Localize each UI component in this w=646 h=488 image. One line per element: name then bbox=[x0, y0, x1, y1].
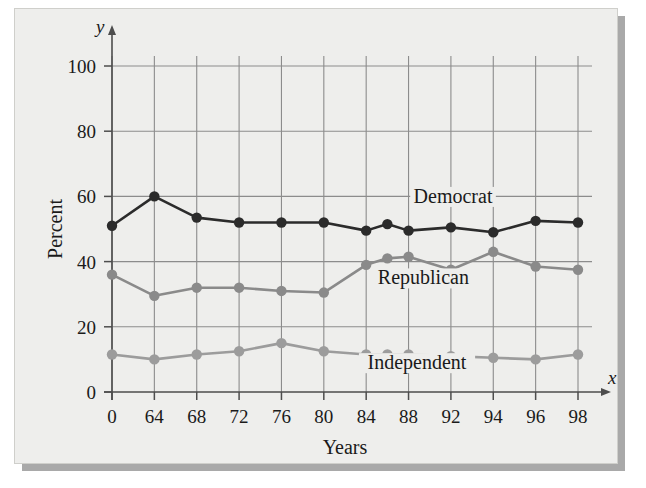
data-point bbox=[573, 349, 583, 359]
series-line bbox=[112, 252, 578, 296]
data-point bbox=[276, 286, 286, 296]
axes: yx bbox=[94, 16, 617, 400]
series-republican bbox=[107, 247, 583, 301]
data-point bbox=[403, 225, 413, 235]
data-point bbox=[192, 212, 202, 222]
data-point bbox=[361, 260, 371, 270]
series-label-republican: Republican bbox=[378, 266, 469, 289]
series-label-independent: Independent bbox=[368, 351, 467, 374]
data-point bbox=[403, 252, 413, 262]
data-point bbox=[234, 282, 244, 292]
data-series bbox=[107, 191, 583, 364]
series-democrat bbox=[107, 191, 583, 237]
data-point bbox=[530, 261, 540, 271]
y-tick-label: 20 bbox=[77, 317, 96, 338]
tick-marks bbox=[104, 66, 578, 400]
y-tick-label: 40 bbox=[77, 252, 96, 273]
data-point bbox=[361, 225, 371, 235]
data-point bbox=[382, 253, 392, 263]
data-point bbox=[192, 282, 202, 292]
y-axis-letter: y bbox=[94, 16, 105, 37]
y-tick-label: 0 bbox=[87, 382, 97, 403]
x-axis-title: Years bbox=[323, 436, 368, 458]
data-point bbox=[107, 221, 117, 231]
series-line bbox=[112, 196, 578, 232]
y-tick-label: 60 bbox=[77, 186, 96, 207]
data-point bbox=[149, 291, 159, 301]
data-point bbox=[234, 217, 244, 227]
series-independent bbox=[107, 338, 583, 365]
x-tick-label: 92 bbox=[441, 406, 460, 427]
data-point bbox=[192, 349, 202, 359]
x-tick-label: 88 bbox=[399, 406, 418, 427]
x-tick-label: 72 bbox=[230, 406, 249, 427]
data-point bbox=[276, 338, 286, 348]
data-point bbox=[530, 216, 540, 226]
data-point bbox=[234, 346, 244, 356]
data-point bbox=[573, 217, 583, 227]
data-point bbox=[319, 346, 329, 356]
tick-labels: 02040608010006468727680848892949698 bbox=[68, 56, 588, 427]
y-axis-arrowhead bbox=[108, 25, 116, 35]
x-tick-label: 98 bbox=[569, 406, 588, 427]
data-point bbox=[446, 222, 456, 232]
series-line bbox=[112, 343, 578, 359]
data-point bbox=[488, 247, 498, 257]
x-tick-label: 96 bbox=[526, 406, 545, 427]
data-point bbox=[107, 269, 117, 279]
y-tick-label: 80 bbox=[77, 121, 96, 142]
x-tick-label: 80 bbox=[314, 406, 333, 427]
data-point bbox=[276, 217, 286, 227]
figure-root: yx 02040608010006468727680848892949698 D… bbox=[0, 0, 646, 488]
x-tick-label: 0 bbox=[107, 406, 117, 427]
x-tick-label: 64 bbox=[145, 406, 165, 427]
data-point bbox=[488, 227, 498, 237]
x-tick-label: 76 bbox=[272, 406, 291, 427]
x-tick-label: 68 bbox=[187, 406, 206, 427]
data-point bbox=[149, 354, 159, 364]
y-axis-title: Percent bbox=[44, 199, 66, 259]
data-point bbox=[107, 349, 117, 359]
x-axis-arrowhead bbox=[601, 388, 611, 396]
data-point bbox=[319, 217, 329, 227]
x-tick-label: 84 bbox=[357, 406, 377, 427]
data-point bbox=[149, 191, 159, 201]
data-point bbox=[488, 353, 498, 363]
data-point bbox=[382, 219, 392, 229]
x-axis-letter: x bbox=[607, 367, 617, 388]
line-chart: yx 02040608010006468727680848892949698 D… bbox=[0, 0, 646, 488]
data-point bbox=[319, 287, 329, 297]
x-tick-label: 94 bbox=[484, 406, 504, 427]
y-tick-label: 100 bbox=[68, 56, 97, 77]
data-point bbox=[573, 265, 583, 275]
data-point bbox=[530, 354, 540, 364]
series-label-democrat: Democrat bbox=[414, 185, 493, 207]
series-annotations: DemocratRepublicanIndependent bbox=[359, 185, 496, 374]
